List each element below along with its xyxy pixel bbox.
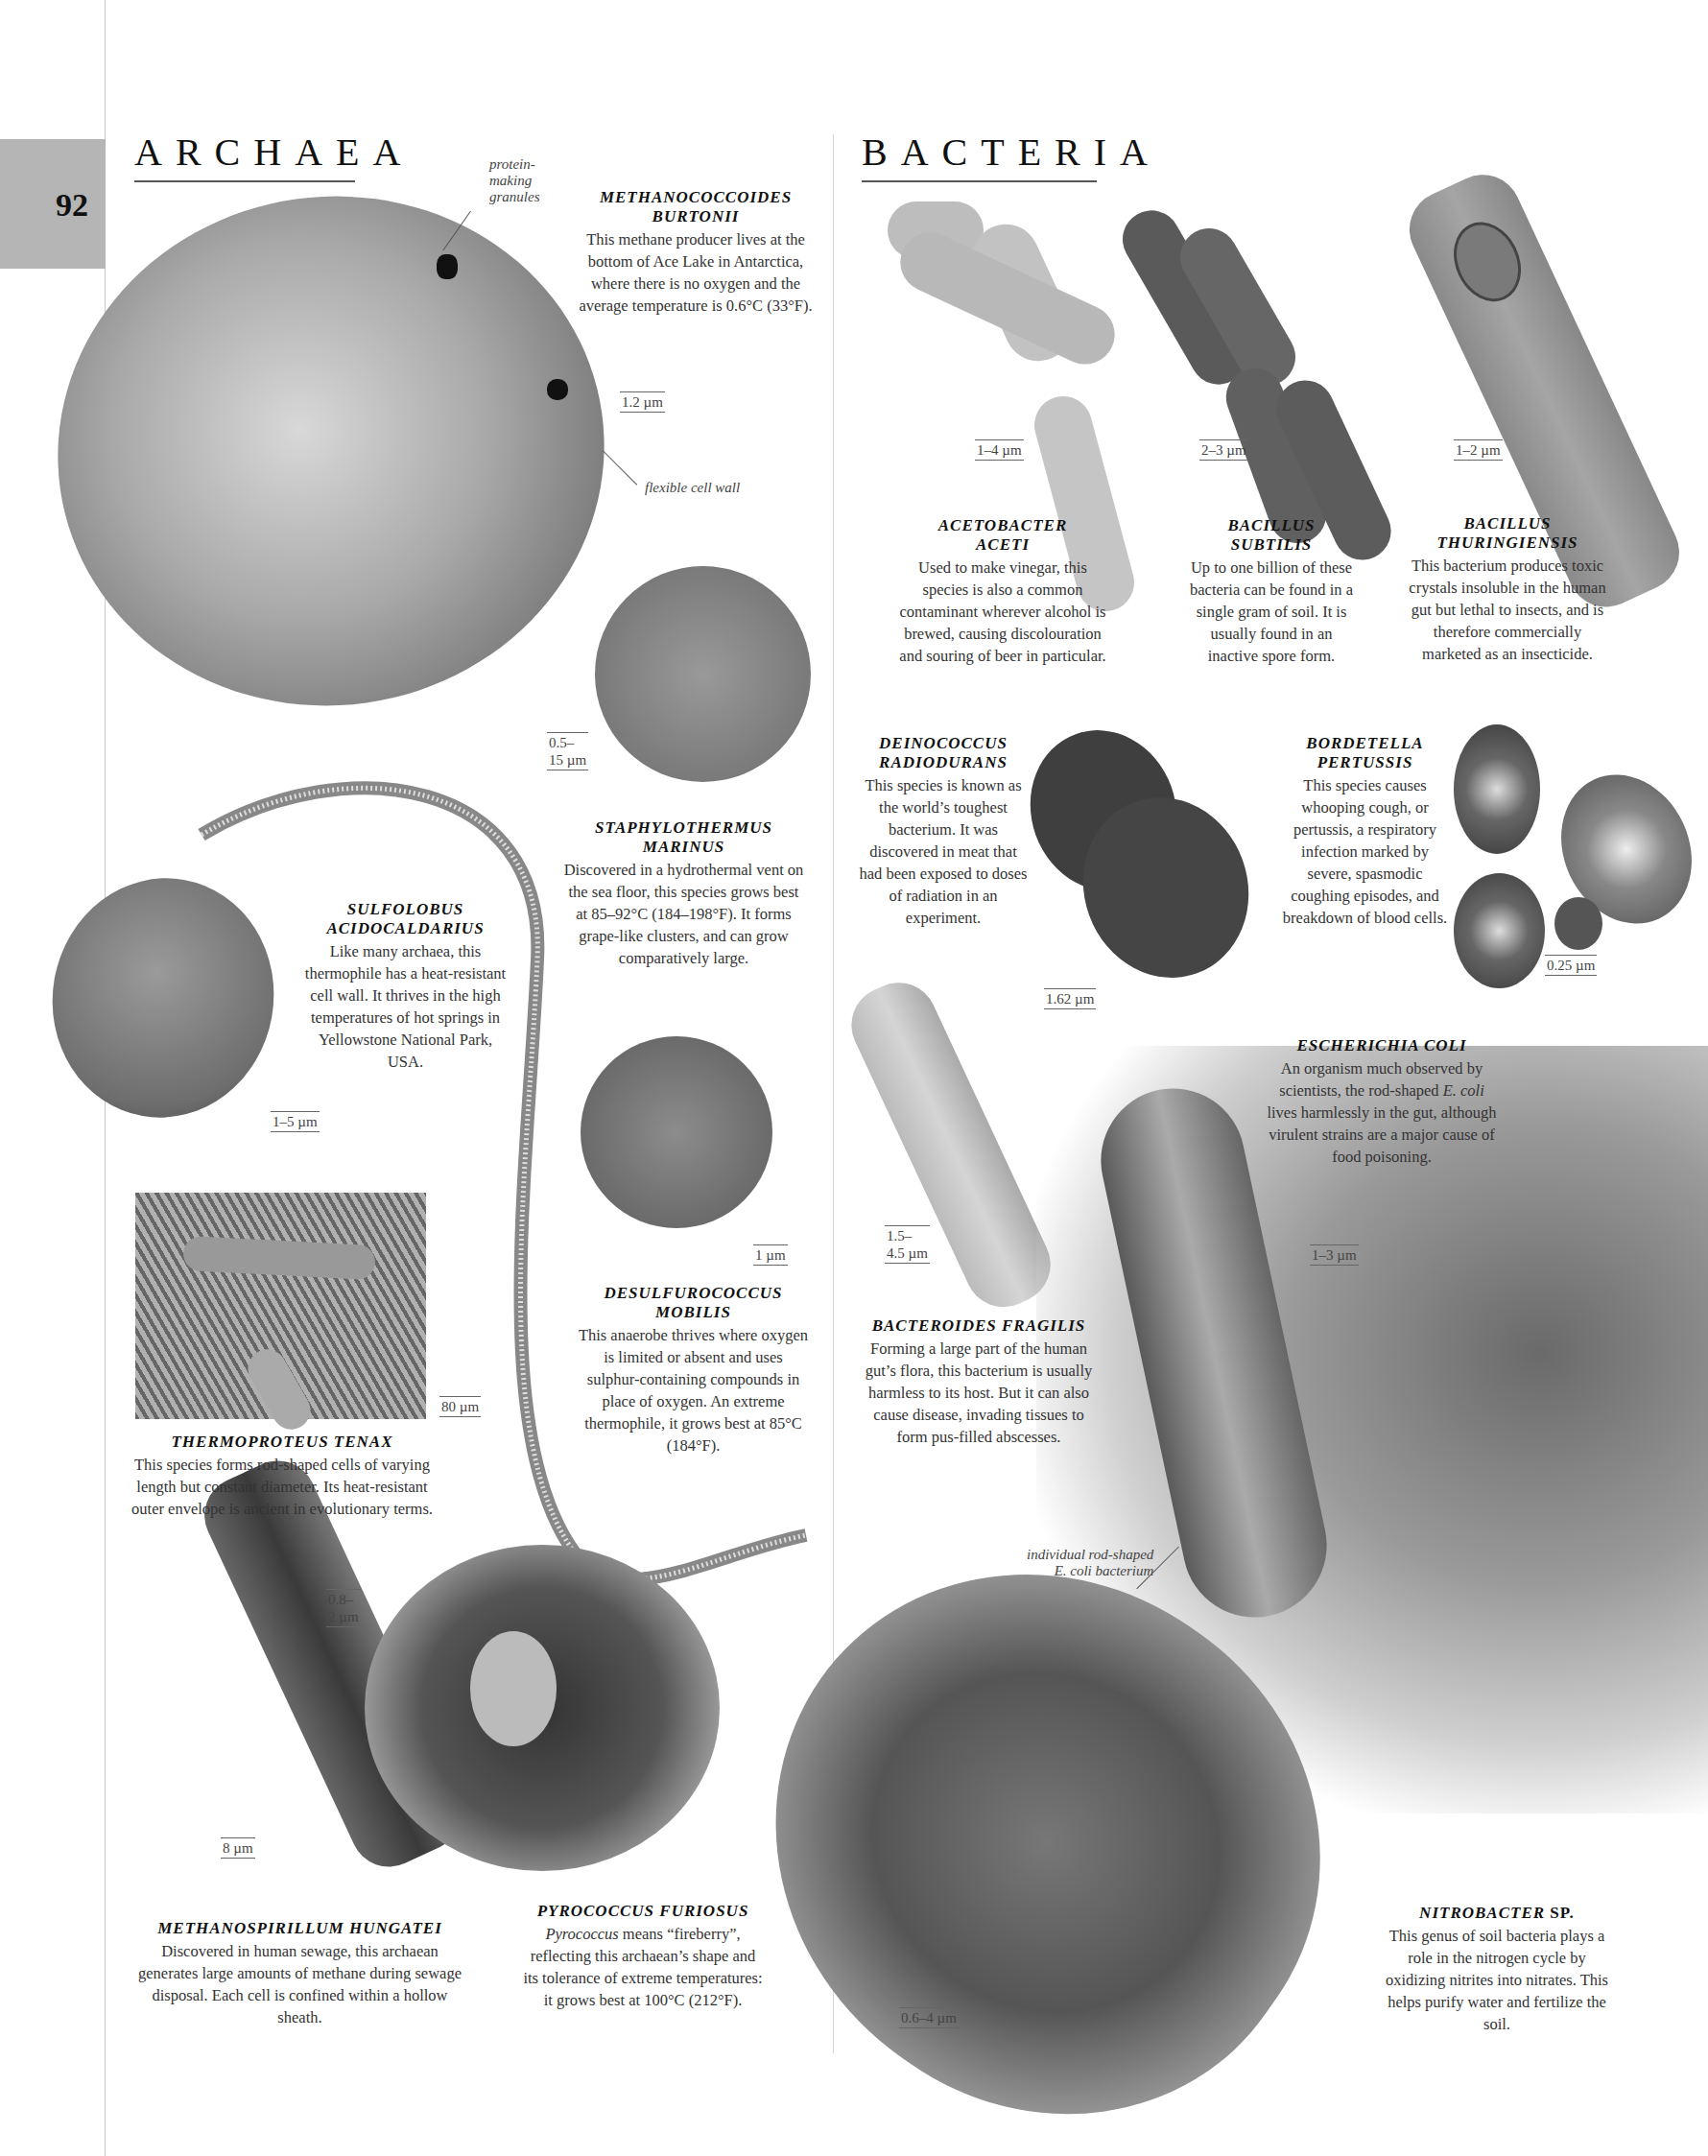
annotation-flexible-wall: flexible cell wall	[645, 480, 740, 496]
species-name: METHANOSPIRILLUM HUNGATEI	[130, 1919, 470, 1938]
species-description: This methane producer lives at the botto…	[576, 228, 816, 317]
species-methanococcoides: METHANOCOCCOIDES BURTONII This methane p…	[576, 188, 816, 317]
species-name: BACILLUS SUBTILIS	[1185, 516, 1358, 555]
species-name: ACETOBACTER ACETI	[897, 516, 1108, 555]
species-acetobacter: ACETOBACTER ACETI Used to make vinegar, …	[897, 516, 1108, 667]
bordetella-image	[1454, 724, 1540, 854]
species-description: This species is known as the world’s tou…	[857, 774, 1030, 929]
species-name: THERMOPROTEUS TENAX	[130, 1433, 435, 1452]
species-name: BACTEROIDES FRAGILIS	[859, 1316, 1099, 1336]
species-description: Like many archaea, this thermophile has …	[302, 940, 509, 1073]
species-emphasis: E. coli	[1443, 1081, 1484, 1100]
species-name: DEINOCOCCUS RADIODURANS	[857, 734, 1030, 772]
species-name: BORDETELLA PERTUSSIS	[1281, 734, 1449, 772]
thermoproteus-image	[135, 1193, 426, 1419]
species-bacillus-subtilis: BACILLUS SUBTILIS Up to one billion of t…	[1185, 516, 1358, 667]
species-name: NITROBACTER SP.	[1382, 1904, 1612, 1923]
scale-bar: 1.62 µm	[1044, 988, 1096, 1009]
species-description: Pyrococcus means “fireberry”, reflecting…	[523, 1923, 763, 2011]
scale-bar: 2–3 µm	[1199, 439, 1248, 461]
species-description: This species forms rod-shaped cells of v…	[130, 1454, 435, 1520]
species-ecoli: ESCHERICHIA COLI An organism much observ…	[1267, 1036, 1497, 1168]
scale-bar: 1–2 µm	[1454, 439, 1503, 461]
annotation-protein-granules: protein- making granules	[489, 156, 557, 205]
species-name: ESCHERICHIA COLI	[1267, 1036, 1497, 1055]
page-number-tab: 92	[0, 139, 106, 269]
species-thermoproteus: THERMOPROTEUS TENAX This species forms r…	[130, 1433, 435, 1520]
species-description: Discovered in human sewage, this archaea…	[130, 1940, 470, 2028]
scale-bar: 80 µm	[439, 1396, 481, 1417]
scale-bar: 0.8– 2 µm	[326, 1589, 361, 1627]
page-number: 92	[56, 187, 88, 224]
desulfurococcus-image	[581, 1036, 772, 1228]
species-name: DESULFUROCOCCUS MOBILIS	[576, 1284, 811, 1322]
scale-bar: 0.25 µm	[1545, 955, 1597, 976]
species-name: STAPHYLOTHERMUS MARINUS	[561, 818, 806, 857]
species-name: BACILLUS THURINGIENSIS	[1403, 514, 1612, 553]
genus-name: NITROBACTER	[1419, 1904, 1545, 1922]
scale-bar: 1–5 µm	[271, 1111, 320, 1132]
pyrococcus-cell	[470, 1631, 557, 1746]
granule-marker	[547, 379, 568, 400]
section-title-bacteria: BACTERIA	[862, 130, 1097, 182]
species-description: An organism much observed by scientists,…	[1267, 1057, 1497, 1168]
leader-line	[603, 451, 637, 486]
species-description: Forming a large part of the human gut’s …	[859, 1338, 1099, 1448]
bacteroides-image	[839, 970, 1063, 1319]
description-text: lives harmlessly in the gut, although vi…	[1267, 1103, 1496, 1166]
granule-marker	[437, 254, 458, 279]
species-description: This species causes whooping cough, or p…	[1281, 774, 1449, 929]
species-description: This bacterium produces toxic crystals i…	[1403, 555, 1612, 665]
scale-bar: 0.6–4 µm	[899, 2007, 959, 2028]
scale-bar: 1–4 µm	[975, 439, 1024, 461]
species-name: METHANOCOCCOIDES BURTONII	[576, 188, 816, 226]
staphylothermus-image	[595, 566, 811, 782]
scale-bar: 1.2 µm	[620, 391, 665, 413]
scale-bar: 1–3 µm	[1310, 1244, 1359, 1266]
species-suffix: SP.	[1545, 1904, 1575, 1922]
bordetella-image	[1554, 897, 1602, 950]
species-staphylothermus: STAPHYLOTHERMUS MARINUS Discovered in a …	[561, 818, 806, 969]
section-title-archaea: ARCHAEA	[134, 130, 355, 182]
species-desulfurococcus: DESULFUROCOCCUS MOBILIS This anaerobe th…	[576, 1284, 811, 1457]
species-name: SULFOLOBUS ACIDOCALDARIUS	[302, 900, 509, 938]
scale-bar: 0.5– 15 µm	[547, 732, 588, 770]
species-description: Discovered in a hydrothermal vent on the…	[561, 859, 806, 969]
species-deinococcus: DEINOCOCCUS RADIODURANS This species is …	[857, 734, 1030, 929]
scale-bar: 1.5– 4.5 µm	[885, 1225, 930, 1264]
scale-bar: 8 µm	[221, 1837, 255, 1859]
species-methanospirillum: METHANOSPIRILLUM HUNGATEI Discovered in …	[130, 1919, 470, 2028]
species-bordetella: BORDETELLA PERTUSSIS This species causes…	[1281, 734, 1449, 929]
species-nitrobacter: NITROBACTER SP. This genus of soil bacte…	[1382, 1904, 1612, 2035]
species-description: Used to make vinegar, this species is al…	[897, 557, 1108, 667]
bordetella-image	[1454, 873, 1545, 988]
species-name: PYROCOCCUS FURIOSUS	[523, 1902, 763, 1921]
species-pyrococcus: PYROCOCCUS FURIOSUS Pyrococcus means “fi…	[523, 1902, 763, 2011]
species-bacteroides: BACTEROIDES FRAGILIS Forming a large par…	[859, 1316, 1099, 1448]
species-description: This anaerobe thrives where oxygen is li…	[576, 1324, 811, 1457]
species-description: Up to one billion of these bacteria can …	[1185, 557, 1358, 667]
species-description: This genus of soil bacteria plays a role…	[1382, 1925, 1612, 2035]
genus-emphasis: Pyrococcus	[545, 1925, 618, 1943]
methanococcoides-image	[25, 161, 637, 741]
species-bacillus-thuringiensis: BACILLUS THURINGIENSIS This bacterium pr…	[1403, 514, 1612, 665]
scale-bar: 1 µm	[753, 1244, 788, 1266]
species-sulfolobus: SULFOLOBUS ACIDOCALDARIUS Like many arch…	[302, 900, 509, 1073]
